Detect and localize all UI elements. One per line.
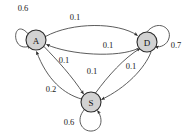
edge-self-loop-s [80,110,101,132]
edge-d-to-a [47,45,139,55]
node-label-a: A [33,36,40,46]
edge-path-a-d [46,25,138,36]
edge-weight-d-d: 0.7 [171,40,182,50]
edge-weight-a-s: 0.1 [59,55,70,65]
state-transition-graph: A D S 0.6 0.7 0.6 0.1 0.1 0.1 0.2 0.1 0.… [0,0,191,135]
edge-weight-d-s: 0.1 [126,61,137,71]
node-d[interactable]: D [137,32,157,52]
edge-path-d-a [47,45,139,55]
node-label-s: S [88,98,93,108]
node-a[interactable]: A [26,30,46,50]
edge-path-s-s [80,110,101,132]
node-label-d: D [144,38,151,48]
edge-a-to-d [46,25,138,36]
node-s[interactable]: S [81,92,101,112]
edge-weight-s-s: 0.6 [64,117,75,127]
edge-weight-a-a: 0.6 [18,3,29,13]
diagram-canvas: A D S 0.6 0.7 0.6 0.1 0.1 0.1 0.2 0.1 0.… [0,0,191,135]
edge-weight-a-d: 0.1 [70,12,81,22]
edge-weight-s-a: 0.2 [46,84,57,94]
edge-weight-s-d: 0.1 [87,66,98,76]
edge-weight-d-a: 0.1 [103,40,114,50]
